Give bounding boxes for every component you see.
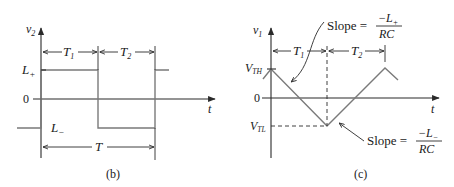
c-t1-label: T1 bbox=[293, 43, 304, 60]
c-slope-rising-leader bbox=[339, 123, 364, 141]
c-t-axis-label: t bbox=[431, 102, 435, 116]
b-period-label: T bbox=[95, 139, 103, 154]
c-zero-label: 0 bbox=[254, 91, 260, 105]
svg-text:−L+: −L+ bbox=[378, 11, 398, 27]
c-vth-label: VTH bbox=[245, 61, 263, 76]
panel-c-triangle-wave: v1 t VTH 0 VTL T1 T2 Slope = −L+ RC Slop… bbox=[245, 11, 442, 181]
b-level-high-label: L+ bbox=[21, 62, 35, 79]
b-zero-label: 0 bbox=[23, 92, 29, 106]
svg-text:Slope =: Slope = bbox=[367, 133, 407, 148]
b-y-axis-label: v2 bbox=[26, 22, 35, 38]
c-slope-rising-annotation: Slope = −L− RC bbox=[367, 126, 442, 156]
svg-text:−L−: −L− bbox=[418, 126, 438, 142]
panel-b-square-wave: v2 t L+ 0 L− T1 T2 T (b) bbox=[17, 22, 215, 181]
c-t2-label: T2 bbox=[351, 43, 362, 60]
c-triangle-waveform bbox=[263, 68, 398, 126]
b-t-axis-label: t bbox=[208, 102, 212, 116]
c-vtl-label: VTL bbox=[250, 119, 266, 134]
svg-text:Slope =: Slope = bbox=[327, 18, 367, 33]
figure-canvas: v2 t L+ 0 L− T1 T2 T (b) v1 t VTH bbox=[0, 0, 454, 187]
c-y-axis-label: v1 bbox=[253, 23, 262, 39]
svg-text:RC: RC bbox=[378, 27, 395, 41]
b-caption: (b) bbox=[106, 167, 120, 181]
b-level-low-label: L− bbox=[50, 120, 64, 137]
b-t2-label: T2 bbox=[120, 44, 131, 61]
svg-text:RC: RC bbox=[418, 142, 435, 156]
c-slope-falling-annotation: Slope = −L+ RC bbox=[327, 11, 402, 41]
c-caption: (c) bbox=[354, 167, 367, 181]
b-t1-label: T1 bbox=[63, 44, 74, 61]
